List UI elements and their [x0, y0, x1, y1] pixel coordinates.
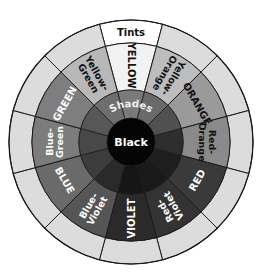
tint-segment-red-orange	[227, 110, 253, 173]
hue-label-blue-green: Blue-Green	[44, 126, 65, 158]
hue-label-line: Green	[54, 126, 65, 158]
hue-label-line: YELLOW	[126, 42, 137, 89]
tints-label: Tints	[117, 27, 145, 38]
hue-label-text: Blue-Green	[44, 126, 65, 158]
hue-label-text: VIOLET	[126, 198, 137, 238]
hue-label-violet: VIOLET	[126, 198, 137, 238]
tint-segment-violet	[99, 238, 162, 264]
hue-label-line: Orange	[197, 122, 208, 161]
hue-label-text: YELLOW	[126, 42, 137, 89]
color-wheel: YELLOWYellow-OrangeORANGERed-OrangeREDRe…	[0, 0, 267, 280]
hue-label-yellow: YELLOW	[126, 42, 137, 89]
black-label: Black	[114, 136, 148, 149]
tint-segment-blue-green	[9, 110, 35, 173]
hue-label-line: VIOLET	[126, 198, 137, 238]
